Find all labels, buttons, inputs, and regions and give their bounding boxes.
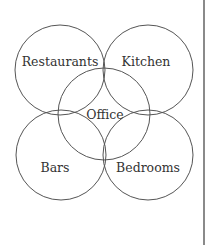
label-bars: Bars: [40, 160, 69, 175]
venn-diagram: Restaurants Kitchen Office Bars Bedrooms: [0, 0, 210, 245]
circle-bedrooms: [103, 110, 193, 200]
label-kitchen: Kitchen: [122, 54, 171, 69]
label-restaurants: Restaurants: [22, 54, 99, 69]
label-bedrooms: Bedrooms: [116, 160, 180, 175]
circle-bars: [16, 110, 106, 200]
page-edge-divider: [203, 0, 205, 245]
label-office: Office: [86, 107, 124, 122]
